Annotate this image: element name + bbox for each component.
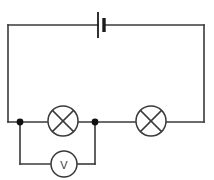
- circuit-diagram: V: [0, 0, 214, 180]
- junction-dot-left: [17, 119, 24, 126]
- junction-dot-middle: [92, 119, 99, 126]
- voltmeter-label: V: [60, 159, 68, 171]
- lamp-left: [48, 106, 78, 136]
- battery-symbol: [98, 12, 104, 38]
- lamp-right: [136, 106, 166, 136]
- voltmeter: V: [51, 151, 77, 177]
- circuit-diagram-canvas: V: [0, 0, 214, 180]
